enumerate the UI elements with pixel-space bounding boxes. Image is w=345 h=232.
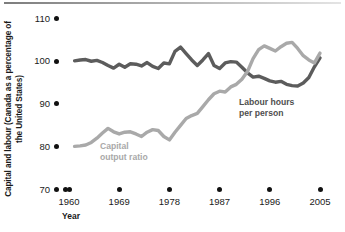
x-tick-label-1978: 1978 [149, 196, 189, 207]
x-tick-label-1996: 1996 [250, 196, 290, 207]
chart-figure: Capital and labour (Canada as a percenta… [0, 0, 345, 232]
x-axis-title: Year [62, 211, 80, 221]
series-line-capital-output-ratio [75, 42, 320, 146]
series-label-labour-hours: Labour hours per person [239, 97, 294, 118]
series-label-labour-line1: Labour hours [239, 97, 294, 108]
x-tick-dot-icon [167, 187, 172, 192]
x-tick-label-1969: 1969 [99, 196, 139, 207]
x-tick-dot-icon [117, 187, 122, 192]
x-tick-dot-icon [318, 187, 323, 192]
x-tick-label-1960: 1960 [49, 196, 89, 207]
series-label-labour-line2: per person [239, 108, 294, 119]
series-line-labour-hours-per-person [75, 47, 320, 86]
x-tick-label-2005: 2005 [300, 196, 340, 207]
x-tick-label-1987: 1987 [200, 196, 240, 207]
series-label-capital-output: Capital output ratio [100, 141, 148, 162]
series-label-capital-line1: Capital [100, 141, 148, 152]
series-label-capital-line2: output ratio [100, 152, 148, 163]
x-tick-dot-icon [67, 187, 72, 192]
